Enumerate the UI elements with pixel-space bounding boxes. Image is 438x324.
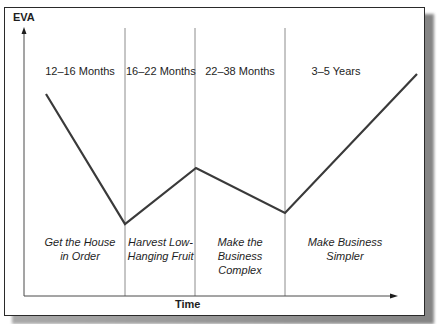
phase-2-duration: 16–22 Months (126, 65, 195, 77)
phase-3-duration: 22–38 Months (200, 65, 280, 77)
x-axis-label: Time (175, 298, 200, 310)
y-axis-arrow-icon (22, 27, 27, 34)
phase-1-description: Get the House in Order (38, 235, 122, 263)
phase-2-description: Harvest Low- Hanging Fruit (126, 235, 195, 263)
phase-1-duration: 12–16 Months (40, 65, 120, 77)
phase-4-description: Make Business Simpler (300, 235, 390, 263)
phase-4-duration: 3–5 Years (296, 65, 376, 77)
x-axis-arrow-icon (390, 294, 398, 299)
phase-3-description: Make the Business Complex (198, 235, 282, 277)
eva-curve-line (46, 74, 417, 224)
y-axis-label: EVA (13, 11, 35, 23)
